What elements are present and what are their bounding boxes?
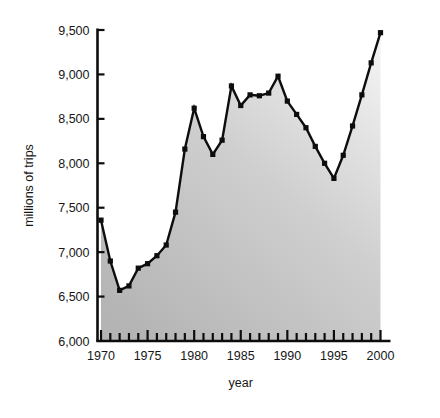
data-point-marker <box>257 93 262 98</box>
x-axis-tick-label: 1970 <box>87 349 115 363</box>
x-axis-tick-label: 1975 <box>134 349 162 363</box>
data-point-marker <box>182 146 187 151</box>
y-axis-tick-label: 8,000 <box>58 157 89 171</box>
data-point-marker <box>117 288 122 293</box>
data-point-marker <box>98 218 103 223</box>
data-point-marker <box>303 125 308 130</box>
x-axis-tick-label: 1985 <box>227 349 255 363</box>
x-axis-tick-label: 1980 <box>180 349 208 363</box>
data-point-marker <box>154 253 159 258</box>
data-point-marker <box>275 74 280 79</box>
y-axis-tick-label: 9,500 <box>58 24 89 38</box>
data-point-marker <box>145 261 150 266</box>
data-point-marker <box>229 83 234 88</box>
y-axis-tick-label: 6,500 <box>58 290 89 304</box>
data-point-marker <box>108 258 113 263</box>
data-point-marker <box>341 153 346 158</box>
data-point-marker <box>266 90 271 95</box>
data-point-marker <box>220 138 225 143</box>
data-point-marker <box>126 283 131 288</box>
y-axis-tick-label: 7,500 <box>58 201 89 215</box>
x-axis-title: year <box>229 376 253 390</box>
data-point-marker <box>331 176 336 181</box>
y-axis-tick-label: 6,000 <box>58 335 89 349</box>
data-point-marker <box>192 106 197 111</box>
data-point-marker <box>164 242 169 247</box>
y-axis-tick-label: 7,000 <box>58 246 89 260</box>
data-point-marker <box>210 152 215 157</box>
data-point-marker <box>313 144 318 149</box>
line-chart: 6,0006,5007,0007,5008,0008,5009,0009,500… <box>0 0 440 418</box>
data-point-marker <box>322 161 327 166</box>
data-point-marker <box>369 60 374 65</box>
y-axis-title: millions of trips <box>22 144 36 227</box>
data-point-marker <box>359 92 364 97</box>
data-point-marker <box>350 123 355 128</box>
area-fill <box>101 33 381 341</box>
chart-container: 6,0006,5007,0007,5008,0008,5009,0009,500… <box>0 0 440 418</box>
data-point-marker <box>247 92 252 97</box>
y-axis-tick-label: 8,500 <box>58 112 89 126</box>
data-point-marker <box>173 210 178 215</box>
data-point-marker <box>378 30 383 35</box>
data-point-marker <box>238 103 243 108</box>
data-point-marker <box>294 112 299 117</box>
data-point-marker <box>201 134 206 139</box>
data-point-marker <box>285 98 290 103</box>
data-point-marker <box>136 266 141 271</box>
x-axis-tick-label: 1995 <box>320 349 348 363</box>
x-axis-tick-label: 1990 <box>273 349 301 363</box>
x-axis-tick-label: 2000 <box>367 349 395 363</box>
y-axis-tick-label: 9,000 <box>58 68 89 82</box>
